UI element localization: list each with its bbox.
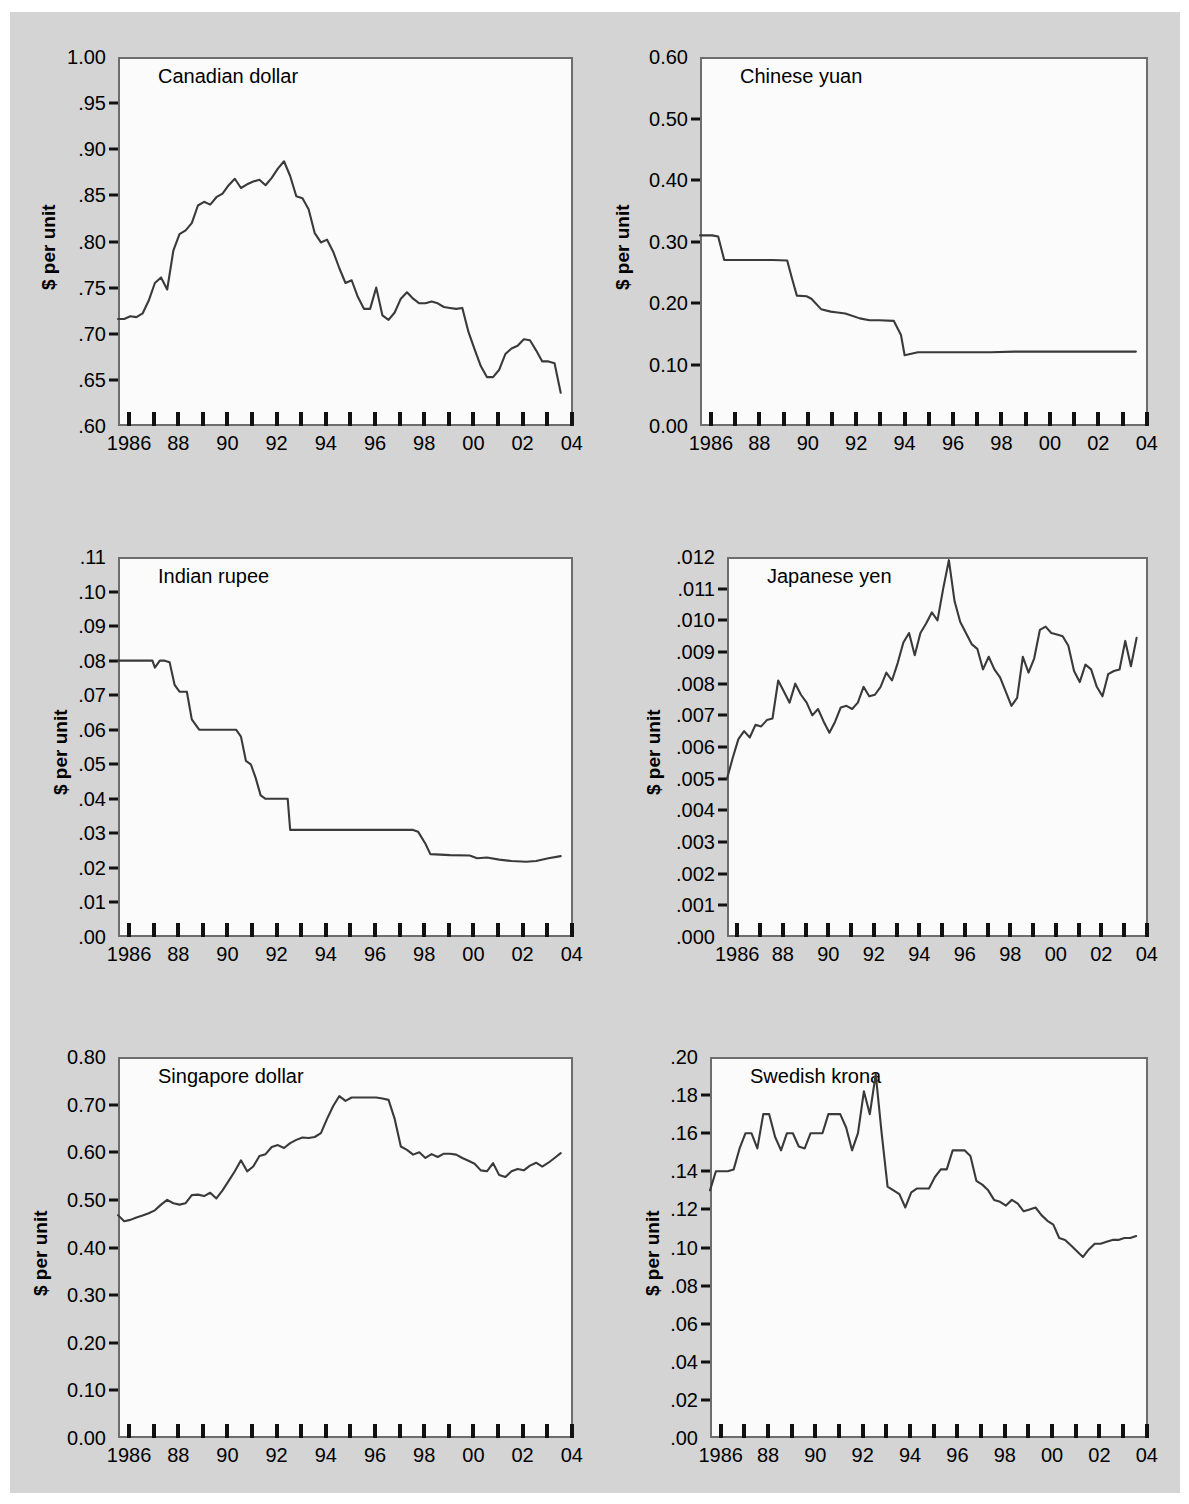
x-tick-label: 90 [216,432,238,455]
y-tick-label: 0.30 [618,230,688,253]
plot-area [710,1057,1148,1438]
x-tick-label: 00 [462,1444,484,1467]
x-tick-mark [790,1424,794,1438]
x-tick-mark [1099,923,1103,937]
x-tick-label: 02 [1088,1444,1110,1467]
y-tick-mark [109,194,118,197]
x-tick-mark [854,412,858,426]
y-tick-mark [718,746,727,749]
x-tick-mark [940,923,944,937]
x-tick-mark [152,923,156,937]
x-tick-mark [861,1424,865,1438]
x-tick-mark [201,1424,205,1438]
y-tick-label: 0.70 [36,1093,106,1116]
y-tick-mark [701,1284,710,1287]
y-tick-label: .90 [44,138,106,161]
y-tick-label: .001 [649,894,715,917]
y-tick-mark [718,809,727,812]
x-tick-mark [1097,1424,1101,1438]
y-tick-mark [718,587,727,590]
y-tick-label: .06 [56,718,106,741]
x-tick-mark [908,1424,912,1438]
y-tick-label: .80 [44,230,106,253]
panel-title: Singapore dollar [158,1065,304,1088]
y-tick-label: 0.00 [36,1427,106,1450]
x-tick-label: 94 [908,943,930,966]
x-tick-mark [1054,923,1058,937]
y-tick-mark [691,240,700,243]
x-tick-mark [903,412,907,426]
y-tick-label: 0.30 [36,1284,106,1307]
x-tick-mark [1074,1424,1078,1438]
x-tick-label: 90 [216,943,238,966]
y-tick-mark [109,659,118,662]
x-tick-label: 92 [863,943,885,966]
y-tick-mark [701,1132,710,1135]
x-tick-mark [152,1424,156,1438]
x-tick-mark [545,412,549,426]
y-tick-mark [109,1246,118,1249]
y-tick-mark [109,1341,118,1344]
y-tick-mark [109,1389,118,1392]
plot-area [727,557,1148,937]
y-tick-mark [109,1103,118,1106]
x-tick-mark [471,412,475,426]
x-tick-label: 90 [804,1444,826,1467]
y-tick-label: 0.40 [36,1236,106,1259]
y-tick-mark [109,148,118,151]
y-tick-label: .01 [56,891,106,914]
x-tick-mark [275,1424,279,1438]
y-tick-label: .16 [648,1122,698,1145]
x-tick-mark [275,923,279,937]
x-tick-mark [826,923,830,937]
x-tick-mark [766,1424,770,1438]
x-tick-label: 96 [364,1444,386,1467]
x-tick-label: 92 [266,1444,288,1467]
y-tick-label: .04 [648,1350,698,1373]
x-tick-mark [804,923,808,937]
x-tick-label: 1986 [107,943,152,966]
x-tick-mark [373,412,377,426]
x-tick-mark [348,923,352,937]
y-tick-mark [109,378,118,381]
x-tick-mark [1121,412,1125,426]
y-tick-label: .004 [649,799,715,822]
y-tick-mark [109,625,118,628]
x-tick-mark [1096,412,1100,426]
x-tick-mark [1122,923,1126,937]
x-tick-mark [872,923,876,937]
y-tick-mark [701,1208,710,1211]
x-tick-mark [570,923,574,937]
y-tick-label: 0.60 [36,1141,106,1164]
x-tick-label: 1986 [107,1444,152,1467]
x-tick-mark [545,1424,549,1438]
y-tick-label: .12 [648,1198,698,1221]
plot-area [118,1057,573,1438]
x-tick-mark [176,412,180,426]
x-tick-label: 94 [315,943,337,966]
x-tick-mark [152,412,156,426]
x-tick-mark [927,412,931,426]
x-tick-mark [127,1424,131,1438]
x-tick-mark [225,1424,229,1438]
y-tick-mark [109,866,118,869]
x-tick-mark [1145,1424,1149,1438]
y-tick-mark [109,694,118,697]
y-tick-mark [701,1094,710,1097]
y-tick-mark [109,240,118,243]
x-tick-mark [999,412,1003,426]
y-tick-label: .04 [56,787,106,810]
x-tick-mark [963,923,967,937]
x-tick-mark [201,412,205,426]
x-tick-mark [471,923,475,937]
x-tick-mark [719,1424,723,1438]
y-tick-mark [109,590,118,593]
y-tick-mark [109,1294,118,1297]
panel-title: Indian rupee [158,565,269,588]
x-tick-label: 04 [561,1444,583,1467]
y-tick-mark [718,777,727,780]
x-tick-mark [127,923,131,937]
y-tick-label: .08 [56,649,106,672]
y-tick-label: .08 [648,1274,698,1297]
x-tick-mark [1024,412,1028,426]
